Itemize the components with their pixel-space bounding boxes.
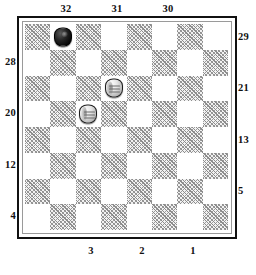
board-grid	[25, 24, 228, 230]
board-square-r6-c1[interactable]	[25, 153, 50, 179]
board-square-r7-c1[interactable]	[25, 179, 50, 205]
board-square-r1-c2[interactable]	[50, 24, 75, 50]
board-square-r6-c8[interactable]	[203, 153, 228, 179]
board-square-r3-c6[interactable]	[152, 76, 177, 102]
board-square-r8-c8[interactable]	[203, 204, 228, 230]
board-square-r2-c8[interactable]	[203, 50, 228, 76]
piece-black-1[interactable]	[54, 27, 72, 46]
board-square-r2-c7[interactable]	[177, 50, 202, 76]
piece-ridge-r1	[109, 86, 120, 87]
coord-right-5: 5	[238, 185, 255, 196]
coord-bottom-1: 1	[182, 245, 204, 256]
board-square-r6-c4[interactable]	[101, 153, 126, 179]
board-square-r1-c5[interactable]	[127, 24, 152, 50]
board-square-r1-c4[interactable]	[101, 24, 126, 50]
coord-right-13: 13	[238, 134, 255, 145]
board-square-r3-c3[interactable]	[76, 76, 101, 102]
coord-bottom-2: 2	[131, 245, 153, 256]
board-square-r4-c6[interactable]	[152, 101, 177, 127]
board-square-r2-c1[interactable]	[25, 50, 50, 76]
board-square-r7-c6[interactable]	[152, 179, 177, 205]
board-square-r8-c3[interactable]	[76, 204, 101, 230]
board-square-r5-c8[interactable]	[203, 127, 228, 153]
board-square-r3-c2[interactable]	[50, 76, 75, 102]
board-square-r8-c1[interactable]	[25, 204, 50, 230]
board-square-r3-c1[interactable]	[25, 76, 50, 102]
coord-left-12: 12	[1, 159, 16, 170]
board-square-r3-c8[interactable]	[203, 76, 228, 102]
board-square-r3-c5[interactable]	[127, 76, 152, 102]
board-square-r4-c8[interactable]	[203, 101, 228, 127]
piece-ridge-r2	[84, 114, 95, 115]
piece-white-1[interactable]	[105, 79, 123, 98]
board-square-r4-c4[interactable]	[101, 101, 126, 127]
board-square-r6-c5[interactable]	[127, 153, 152, 179]
board-square-r8-c5[interactable]	[127, 204, 152, 230]
coord-left-20: 20	[1, 107, 16, 118]
piece-white-2[interactable]	[79, 105, 97, 124]
board-square-r2-c6[interactable]	[152, 50, 177, 76]
board-square-r5-c4[interactable]	[101, 127, 126, 153]
board-square-r1-c6[interactable]	[152, 24, 177, 50]
board-square-r8-c6[interactable]	[152, 204, 177, 230]
board-square-r6-c2[interactable]	[50, 153, 75, 179]
board-square-r2-c3[interactable]	[76, 50, 101, 76]
checkers-diagram: 32 31 30 3 2 1 28 20 12 4 29 21 13 5	[0, 0, 256, 275]
board-square-r2-c5[interactable]	[127, 50, 152, 76]
board-square-r4-c1[interactable]	[25, 101, 50, 127]
board-square-r5-c6[interactable]	[152, 127, 177, 153]
board-frame	[17, 16, 237, 239]
coord-left-4: 4	[1, 210, 16, 221]
board-square-r6-c7[interactable]	[177, 153, 202, 179]
board-square-r1-c1[interactable]	[25, 24, 50, 50]
board-square-r3-c7[interactable]	[177, 76, 202, 102]
board-square-r4-c3[interactable]	[76, 101, 101, 127]
coord-left-28: 28	[1, 56, 16, 67]
coord-right-29: 29	[238, 31, 255, 42]
board-square-r8-c2[interactable]	[50, 204, 75, 230]
board-square-r4-c2[interactable]	[50, 101, 75, 127]
piece-ridge-r3	[109, 92, 120, 93]
board-square-r6-c6[interactable]	[152, 153, 177, 179]
board-square-r7-c7[interactable]	[177, 179, 202, 205]
board-square-r4-c5[interactable]	[127, 101, 152, 127]
board-square-r5-c7[interactable]	[177, 127, 202, 153]
piece-ridge-r3	[84, 118, 95, 119]
board-square-r7-c8[interactable]	[203, 179, 228, 205]
coord-top-31: 31	[106, 3, 128, 14]
board-square-r5-c3[interactable]	[76, 127, 101, 153]
board-square-r5-c1[interactable]	[25, 127, 50, 153]
board-square-r8-c7[interactable]	[177, 204, 202, 230]
board-square-r2-c2[interactable]	[50, 50, 75, 76]
board-square-r7-c4[interactable]	[101, 179, 126, 205]
coord-bottom-3: 3	[80, 245, 102, 256]
piece-highlight	[62, 31, 67, 37]
coord-top-30: 30	[157, 3, 179, 14]
piece-ridge-r1	[84, 111, 95, 112]
board-square-r3-c4[interactable]	[101, 76, 126, 102]
board-square-r4-c7[interactable]	[177, 101, 202, 127]
board-square-r6-c3[interactable]	[76, 153, 101, 179]
board-square-r1-c7[interactable]	[177, 24, 202, 50]
board-square-r1-c3[interactable]	[76, 24, 101, 50]
board-square-r7-c2[interactable]	[50, 179, 75, 205]
board-square-r7-c3[interactable]	[76, 179, 101, 205]
board-square-r7-c5[interactable]	[127, 179, 152, 205]
board-square-r8-c4[interactable]	[101, 204, 126, 230]
board-square-r5-c2[interactable]	[50, 127, 75, 153]
coord-top-32: 32	[55, 3, 77, 14]
board-square-r2-c4[interactable]	[101, 50, 126, 76]
board-square-r5-c5[interactable]	[127, 127, 152, 153]
coord-right-21: 21	[238, 82, 255, 93]
piece-ridge-r2	[109, 89, 120, 90]
board-square-r1-c8[interactable]	[203, 24, 228, 50]
